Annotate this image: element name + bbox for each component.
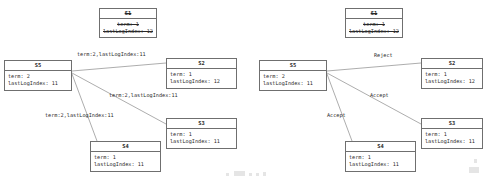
node-field: term: 2 [263, 73, 323, 80]
node-title: S1 [100, 9, 156, 19]
node-s4: S4term: 1lastLogIndex: 11 [345, 141, 416, 172]
node-title: S3 [167, 119, 236, 129]
node-body: term: 1lastLogIndex: 11 [422, 129, 482, 148]
node-field: term: 2 [8, 73, 68, 80]
caption-smudge [249, 173, 252, 176]
caption-smudge [256, 173, 259, 176]
node-title: S2 [167, 59, 236, 69]
edge-label-s5-s3: term:2,lastLogIndex:11 [109, 92, 178, 99]
node-field: lastLogIndex: 11 [349, 161, 412, 168]
node-body: term: 1lastLogIndex: 12 [167, 69, 236, 88]
node-s4: S4term: 1lastLogIndex: 11 [90, 141, 161, 172]
edge-s5-s4 [72, 74, 97, 141]
node-field: lastLogIndex: 12 [103, 28, 153, 35]
node-field: term: 1 [94, 154, 157, 161]
node-field: lastLogIndex: 12 [425, 78, 479, 85]
caption-smudge [469, 167, 479, 173]
node-field: lastLogIndex: 11 [263, 80, 323, 87]
node-title: S4 [346, 142, 415, 152]
node-s2: S2term: 1lastLogIndex: 12 [166, 58, 237, 89]
node-title: S5 [260, 61, 326, 71]
node-field: term: 1 [170, 131, 233, 138]
node-s3: S3term: 1lastLogIndex: 11 [421, 118, 483, 149]
node-s1: S1term: 1lastLogIndex: 12 [99, 8, 157, 38]
edge-s5-s2 [327, 63, 421, 71]
node-s5: S5term: 2lastLogIndex: 11 [4, 60, 72, 91]
caption-smudge [474, 159, 477, 163]
node-title: S3 [422, 119, 482, 129]
node-field: lastLogIndex: 11 [94, 161, 157, 168]
node-body: term: 1lastLogIndex: 12 [100, 19, 156, 38]
caption-smudge [234, 171, 245, 176]
edge-label-s5-s4: term:2,lastLogIndex:11 [45, 112, 114, 119]
node-field: lastLogIndex: 11 [8, 80, 68, 87]
caption-smudge [226, 173, 229, 176]
node-s1: S1term: 1lastLogIndex: 12 [345, 8, 403, 38]
node-body: term: 1lastLogIndex: 11 [167, 129, 236, 148]
node-field: term: 1 [425, 71, 479, 78]
node-field: lastLogIndex: 11 [425, 138, 479, 145]
edge-label-s5-s4: Accept [327, 112, 346, 119]
node-s5: S5term: 2lastLogIndex: 11 [259, 60, 327, 91]
node-field: lastLogIndex: 11 [170, 138, 233, 145]
node-body: term: 2lastLogIndex: 11 [260, 71, 326, 90]
edge-s5-s4 [327, 74, 352, 141]
node-body: term: 1lastLogIndex: 11 [346, 152, 415, 171]
figure-canvas: S1term: 1lastLogIndex: 12S5term: 2lastLo… [0, 0, 483, 181]
node-s3: S3term: 1lastLogIndex: 11 [166, 118, 237, 149]
node-title: S4 [91, 142, 160, 152]
edge-label-s5-s2: term:2,lastLogIndex:11 [77, 51, 146, 58]
node-body: term: 1lastLogIndex: 12 [422, 69, 482, 88]
node-field: term: 1 [349, 21, 399, 28]
edge-s5-s2 [72, 63, 166, 71]
node-field: term: 1 [103, 21, 153, 28]
node-body: term: 1lastLogIndex: 11 [91, 152, 160, 171]
node-s2: S2term: 1lastLogIndex: 12 [421, 58, 483, 89]
node-field: term: 1 [349, 154, 412, 161]
caption-smudge [263, 172, 266, 176]
node-title: S2 [422, 59, 482, 69]
edge-label-s5-s2: Reject [374, 52, 393, 59]
node-title: S5 [5, 61, 71, 71]
edge-label-s5-s3: Accept [370, 92, 389, 99]
node-field: lastLogIndex: 12 [349, 28, 399, 35]
node-body: term: 2lastLogIndex: 11 [5, 71, 71, 90]
node-field: term: 1 [170, 71, 233, 78]
node-body: term: 1lastLogIndex: 12 [346, 19, 402, 38]
node-title: S1 [346, 9, 402, 19]
node-field: term: 1 [425, 131, 479, 138]
node-field: lastLogIndex: 12 [170, 78, 233, 85]
